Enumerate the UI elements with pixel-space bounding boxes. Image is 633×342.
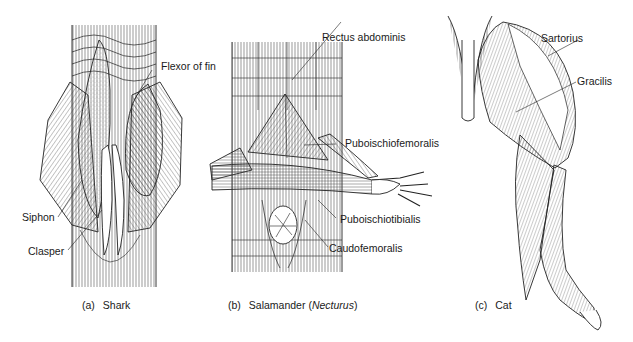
- caption-genus: Necturus: [312, 299, 354, 311]
- caption-salamander: (b)Salamander (Necturus): [228, 299, 357, 311]
- label-rectus-abdominis: Rectus abdominis: [322, 31, 405, 43]
- caption-name: Cat: [495, 299, 511, 311]
- caption-suffix: ): [354, 299, 358, 311]
- comparative-muscle-diagram: Flexor of fin Siphon Clasper (a)Shark Re…: [0, 0, 633, 342]
- label-puboischiofemoralis: Puboischiofemoralis: [345, 137, 439, 149]
- label-gracilis: Gracilis: [577, 75, 612, 87]
- label-puboischiotibialis: Puboischiotibialis: [340, 213, 421, 225]
- caption-shark: (a)Shark: [82, 299, 130, 311]
- caption-name: Salamander (: [249, 299, 312, 311]
- label-caudofemoralis: Caudofemoralis: [329, 242, 403, 254]
- caption-letter: (c): [475, 299, 487, 311]
- caption-letter: (a): [82, 299, 95, 311]
- label-sartorius: Sartorius: [541, 32, 583, 44]
- anatomy-illustrations: [0, 0, 633, 342]
- caption-letter: (b): [228, 299, 241, 311]
- caption-cat: (c)Cat: [475, 299, 512, 311]
- label-flexor-of-fin: Flexor of fin: [161, 60, 216, 72]
- cat-illustration: [448, 16, 601, 330]
- caption-name: Shark: [103, 299, 130, 311]
- label-clasper: Clasper: [28, 245, 64, 257]
- label-siphon: Siphon: [22, 211, 55, 223]
